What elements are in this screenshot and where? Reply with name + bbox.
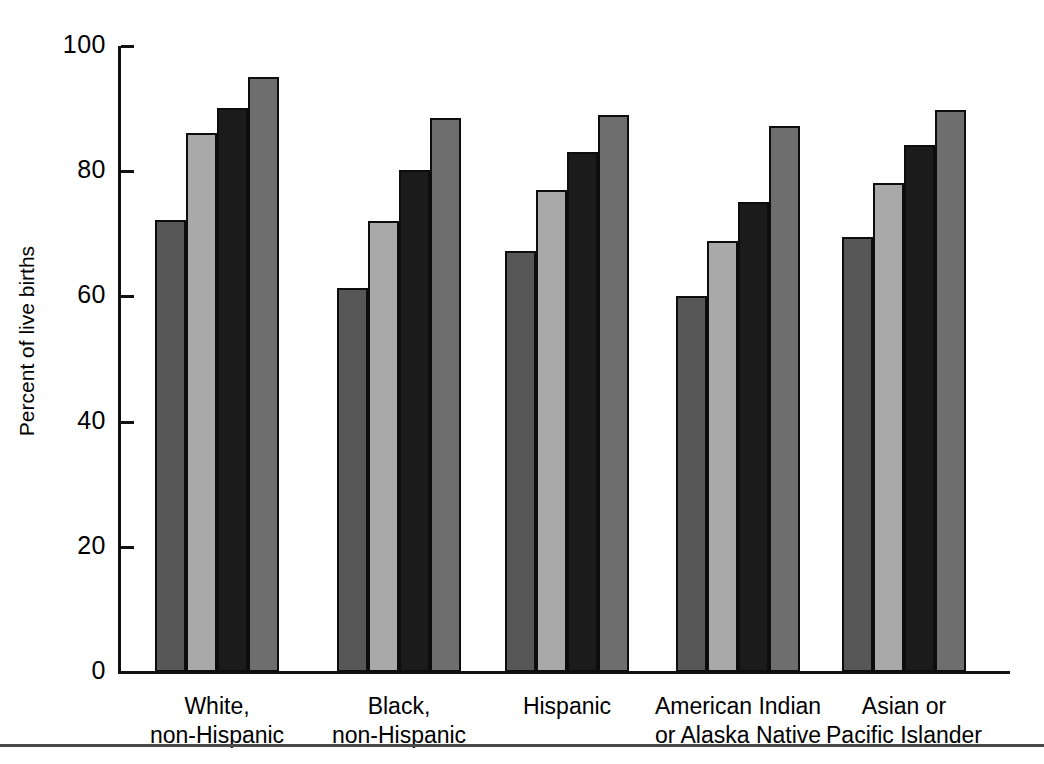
bar-chart-plot-area: 020406080100 Percent of live births Whit… xyxy=(0,0,1044,764)
y-axis-tick-label: 40 xyxy=(36,408,106,433)
bar xyxy=(904,145,935,672)
y-axis-tick-label: 80 xyxy=(36,157,106,182)
y-axis-tick-label: 60 xyxy=(36,282,106,307)
bar xyxy=(186,133,217,672)
bar xyxy=(738,202,769,672)
bar xyxy=(769,126,800,672)
bar xyxy=(842,237,873,672)
bar xyxy=(598,115,629,672)
bar xyxy=(430,118,461,672)
bar xyxy=(217,108,248,672)
bottom-divider-rule xyxy=(0,744,1044,747)
bar xyxy=(337,288,368,672)
bar xyxy=(155,220,186,672)
bar xyxy=(567,152,598,672)
chart-page: 020406080100 Percent of live births Whit… xyxy=(0,0,1044,764)
y-axis-tick xyxy=(121,45,134,48)
y-axis-tick-label: 0 xyxy=(36,658,106,683)
bar xyxy=(676,296,707,672)
bar xyxy=(873,183,904,672)
bar xyxy=(707,241,738,672)
bar xyxy=(399,170,430,672)
y-axis-tick xyxy=(121,295,134,298)
bar xyxy=(368,221,399,672)
y-axis-tick-label: 100 xyxy=(36,32,106,57)
y-axis-tick xyxy=(121,170,134,173)
x-axis-category-label: Asian or Pacific Islander xyxy=(764,692,1044,750)
y-axis-title: Percent of live births xyxy=(16,231,38,451)
y-axis-line xyxy=(118,46,121,674)
y-axis-tick-label: 20 xyxy=(36,533,106,558)
y-axis-tick xyxy=(121,421,134,424)
bar xyxy=(536,190,567,672)
bar xyxy=(935,110,966,672)
bar xyxy=(248,77,279,672)
y-axis-tick xyxy=(121,546,134,549)
bar xyxy=(505,251,536,672)
